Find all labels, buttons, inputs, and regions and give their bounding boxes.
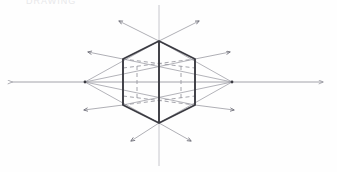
arrow-left-down (84, 105, 123, 110)
arrow-right-down (195, 105, 234, 110)
vanishing-point-VP-right (231, 81, 234, 84)
arrow-up-left (119, 21, 159, 41)
perspective-cube-sketch (0, 0, 337, 172)
arrow-down-right (159, 123, 191, 141)
drawing-canvas: DRAWING (0, 0, 337, 172)
arrow-right-up (195, 52, 230, 59)
arrow-left-up (88, 52, 123, 59)
arrow-up-right (159, 21, 199, 41)
vanishing-point-VP-left (84, 81, 87, 84)
arrow-down-left (131, 123, 159, 141)
